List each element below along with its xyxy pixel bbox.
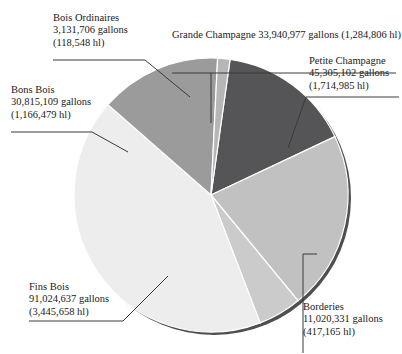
label-petite-champagne: Petite Champagne 45,305,102 gallons (1,7…	[309, 55, 389, 92]
label-fins-bois-name: Fins Bois	[29, 281, 109, 293]
label-petite-champagne-gallons: 45,305,102 gallons	[309, 67, 389, 79]
label-borderies-hl: (417,165 hl)	[303, 326, 383, 338]
label-bons-bois-hl: (1,166,479 hl)	[11, 109, 91, 121]
label-fins-bois-hl: (3,445,658 hl)	[29, 306, 109, 318]
label-bons-bois: Bons Bois 30,815,109 gallons (1,166,479 …	[11, 84, 91, 121]
label-bois-ordinaires-hl: (118,548 hl)	[53, 37, 128, 49]
label-borderies: Borderies 11,020,331 gallons (417,165 hl…	[303, 301, 383, 338]
label-bois-ordinaires-gallons: 3,131,706 gallons	[53, 24, 128, 36]
label-grande-champagne: Grande Champagne 33,940,977 gallons (1,2…	[172, 29, 401, 41]
label-bons-bois-gallons: 30,815,109 gallons	[11, 96, 91, 108]
label-petite-champagne-name: Petite Champagne	[309, 55, 389, 67]
label-borderies-name: Borderies	[303, 301, 383, 313]
label-bois-ordinaires-name: Bois Ordinaires	[53, 12, 128, 24]
label-bois-ordinaires: Bois Ordinaires 3,131,706 gallons (118,5…	[53, 12, 128, 49]
label-fins-bois: Fins Bois 91,024,637 gallons (3,445,658 …	[29, 281, 109, 318]
label-fins-bois-gallons: 91,024,637 gallons	[29, 293, 109, 305]
label-petite-champagne-hl: (1,714,985 hl)	[309, 80, 389, 92]
label-bons-bois-name: Bons Bois	[11, 84, 91, 96]
label-borderies-gallons: 11,020,331 gallons	[303, 313, 383, 325]
label-grande-champagne-line: Grande Champagne 33,940,977 gallons (1,2…	[172, 29, 401, 41]
pie-chart: Bois Ordinaires 3,131,706 gallons (118,5…	[0, 0, 402, 354]
